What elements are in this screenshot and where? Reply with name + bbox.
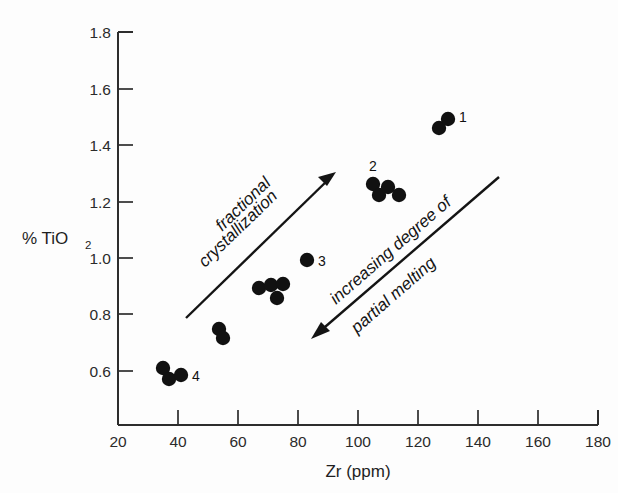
data-point-label-1: 1 — [459, 109, 467, 125]
y-axis-ticks — [118, 89, 133, 371]
x-tick-label-140: 140 — [465, 433, 491, 450]
figure-container: 1.8 1.6 1.4 1.2 1.0 0.8 0.6 20 40 60 80 … — [0, 0, 618, 493]
y-tick-label-1.8: 1.8 — [89, 24, 111, 41]
y-tick-label-0.6: 0.6 — [89, 363, 111, 380]
x-tick-label-80: 80 — [289, 433, 307, 450]
x-tick-label-180: 180 — [585, 433, 611, 450]
x-tick-label-120: 120 — [405, 433, 431, 450]
annotation-partial-melting: increasing degree of partial melting — [326, 191, 456, 338]
annotation-arrows — [186, 172, 499, 339]
partial-melting-arrow — [311, 177, 499, 339]
data-point[interactable] — [276, 277, 290, 291]
data-point[interactable] — [441, 112, 455, 126]
data-point-labels: 1 2 3 4 — [192, 109, 467, 384]
data-point[interactable] — [300, 253, 314, 267]
y-axis-title-main: % TiO — [22, 229, 68, 248]
data-point-label-4: 4 — [192, 368, 200, 384]
data-point-label-2: 2 — [369, 158, 377, 174]
y-tick-label-0.8: 0.8 — [89, 306, 111, 323]
y-axis-tick-labels: 1.8 1.6 1.4 1.2 1.0 0.8 0.6 — [89, 24, 111, 380]
data-point[interactable] — [392, 188, 406, 202]
y-tick-label-1.2: 1.2 — [89, 194, 111, 211]
y-tick-label-1.6: 1.6 — [89, 81, 111, 98]
data-point[interactable] — [174, 368, 188, 382]
data-point[interactable] — [252, 281, 266, 295]
y-axis-title: % TiO 2 — [22, 229, 91, 251]
x-axis-ticks — [118, 410, 538, 425]
data-point[interactable] — [216, 331, 230, 345]
annotation-fractional-crystallization: fractional crystallization — [195, 172, 282, 270]
x-tick-label-40: 40 — [169, 433, 187, 450]
x-tick-label-160: 160 — [525, 433, 551, 450]
y-tick-label-1.0: 1.0 — [89, 250, 111, 267]
x-tick-label-100: 100 — [345, 433, 371, 450]
x-axis-title: Zr (ppm) — [325, 462, 390, 481]
data-points — [156, 112, 455, 386]
x-tick-label-60: 60 — [229, 433, 247, 450]
x-axis-tick-labels: 20 40 60 80 100 120 140 160 180 — [109, 433, 611, 450]
y-tick-label-1.4: 1.4 — [89, 137, 111, 154]
x-tick-label-20: 20 — [109, 433, 127, 450]
data-point-label-3: 3 — [318, 253, 326, 269]
scatter-plot: 1.8 1.6 1.4 1.2 1.0 0.8 0.6 20 40 60 80 … — [0, 0, 618, 493]
axis-frame — [118, 32, 598, 425]
y-axis-title-subscript: 2 — [85, 239, 91, 251]
data-point[interactable] — [270, 291, 284, 305]
